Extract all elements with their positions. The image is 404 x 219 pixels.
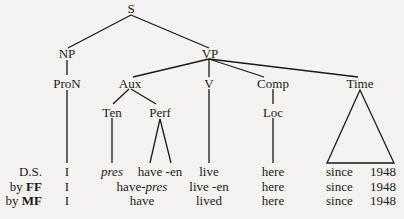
row-by-mf: by MF I have lived here since 1948: [6, 193, 396, 208]
leaf-pron: I: [65, 179, 69, 194]
row-label: by FF: [10, 179, 42, 194]
leaf-since: since: [326, 179, 353, 194]
leaf-since: since: [326, 193, 353, 208]
leaf-v: lived: [196, 193, 222, 208]
tree-edges: [67, 15, 394, 163]
edge-s-np: [68, 15, 131, 48]
edge-aux-ten: [113, 89, 129, 104]
node-time: Time: [347, 76, 374, 91]
leaf-pron: I: [65, 164, 69, 179]
leaf-perf: have -en: [138, 164, 183, 179]
node-vp: VP: [202, 46, 219, 61]
leaf-ten: pres: [100, 164, 123, 179]
leaf-year: 1948: [370, 164, 396, 179]
edge-aux-perf: [131, 89, 156, 104]
leaf-aux: have: [130, 193, 155, 208]
leaf-year: 1948: [370, 193, 396, 208]
node-s: S: [127, 1, 134, 16]
node-v: V: [204, 76, 214, 91]
row-label: by MF: [6, 193, 43, 208]
node-pron: ProN: [53, 76, 81, 91]
leaf-v: live: [199, 164, 219, 179]
syntax-tree: S NP VP ProN Aux V Comp Time Ten Perf Lo…: [0, 0, 404, 219]
row-deep-structure: D.S. I pres have -en live here since 194…: [19, 164, 396, 179]
row-label: D.S.: [19, 164, 42, 179]
tree-nodes: S NP VP ProN Aux V Comp Time Ten Perf Lo…: [53, 1, 373, 120]
leaf-since: since: [326, 164, 353, 179]
row-by-ff: by FF I have-pres live -en here since 19…: [10, 179, 396, 194]
leaf-pron: I: [65, 193, 69, 208]
leaf-loc: here: [262, 164, 285, 179]
leaf-loc: here: [262, 193, 285, 208]
node-aux: Aux: [119, 76, 142, 91]
edge-s-vp: [131, 15, 209, 48]
edge-vp-aux: [133, 59, 209, 77]
node-comp: Comp: [257, 76, 289, 91]
leaf-v: live -en: [189, 179, 229, 194]
edge-vp-time: [209, 59, 358, 77]
leaf-loc: here: [262, 179, 285, 194]
edge-perf-have: [150, 119, 160, 163]
leaf-year: 1948: [370, 179, 396, 194]
edge-perf-en: [160, 119, 171, 163]
leaf-aux: have-pres: [117, 179, 168, 194]
node-np: NP: [59, 46, 76, 61]
node-loc: Loc: [263, 105, 283, 120]
node-ten: Ten: [102, 105, 122, 120]
time-triangle: [327, 90, 394, 163]
node-perf: Perf: [149, 105, 171, 120]
